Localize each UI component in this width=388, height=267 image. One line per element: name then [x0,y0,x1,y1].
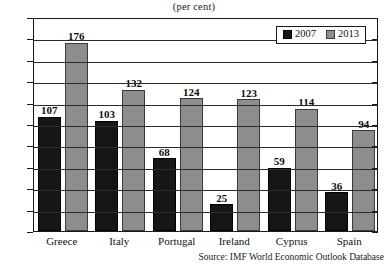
gridline [34,212,377,213]
gridline [34,147,377,148]
legend-item-2007[interactable]: 2007 [283,29,316,40]
gridline [34,190,377,191]
gridline [34,126,377,127]
y-tick-mark-right [372,18,378,19]
bar-value-label: 94 [357,119,370,131]
y-tick-mark-right [372,125,378,126]
bar-italy-2013: 132 [122,90,145,231]
bar-ireland-2007: 25 [210,204,233,231]
y-tick-mark-right [372,211,378,212]
y-tick-mark-right [372,146,378,147]
bar-cyprus-2007: 59 [268,168,291,231]
y-tick-mark [27,125,33,126]
bar-italy-2007: 103 [95,121,118,231]
y-tick-mark [27,104,33,105]
y-tick-mark [27,146,33,147]
bar-value-label: 114 [297,97,315,109]
y-tick-mark-right [372,189,378,190]
bar-greece-2013: 176 [65,43,88,231]
legend-label-2007: 2007 [295,29,316,40]
chart-figure: (per cent) 10717610313268124251235911436… [0,0,388,267]
x-axis-label-ireland: Ireland [206,235,264,247]
bar-value-label: 25 [215,193,228,205]
y-tick-mark [27,82,33,83]
x-axis-label-portugal: Portugal [148,235,206,247]
x-axis-label-spain: Spain [321,235,379,247]
bar-value-label: 107 [40,105,59,117]
gridline [34,105,377,106]
y-tick-mark-right [372,39,378,40]
legend-swatch-2007-icon [283,30,292,39]
bar-value-label: 123 [240,88,259,100]
y-tick-mark-right [372,168,378,169]
x-axis-label-italy: Italy [91,235,149,247]
y-tick-mark [27,61,33,62]
bar-value-label: 103 [98,109,117,121]
bar-greece-2007: 107 [38,117,61,231]
bar-value-label: 68 [158,147,171,159]
legend-label-2013: 2013 [338,29,359,40]
y-tick-mark-right [372,104,378,105]
y-tick-mark [27,232,33,233]
x-axis-label-cyprus: Cyprus [263,235,321,247]
gridline [34,62,377,63]
y-tick-mark-right [372,61,378,62]
y-tick-mark [27,39,33,40]
chart-source-note: Source: IMF World Economic Outlook Datab… [198,252,384,262]
x-axis-label-greece: Greece [33,235,91,247]
bar-value-label: 124 [182,87,201,99]
gridline [34,169,377,170]
y-tick-mark [27,168,33,169]
plot-area: 1071761031326812425123591143694 [33,18,378,232]
y-tick-mark [27,18,33,19]
bars-layer: 1071761031326812425123591143694 [34,19,377,231]
y-tick-mark [27,211,33,212]
y-tick-mark-right [372,82,378,83]
bar-value-label: 59 [273,156,286,168]
legend-swatch-2013-icon [326,30,335,39]
y-tick-mark-right [372,232,378,233]
legend-item-2013[interactable]: 2013 [326,29,359,40]
gridline [34,83,377,84]
chart-legend: 2007 2013 [276,26,366,44]
y-tick-mark [27,189,33,190]
chart-unit-title: (per cent) [0,1,388,12]
bar-cyprus-2013: 114 [295,109,318,231]
